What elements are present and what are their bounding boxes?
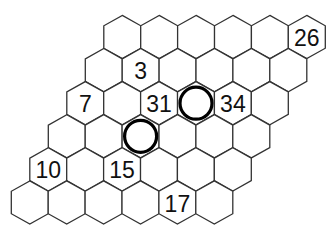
hex-puzzle-board: 26373134101517 bbox=[0, 0, 335, 233]
hex-cell-layer bbox=[11, 15, 325, 224]
